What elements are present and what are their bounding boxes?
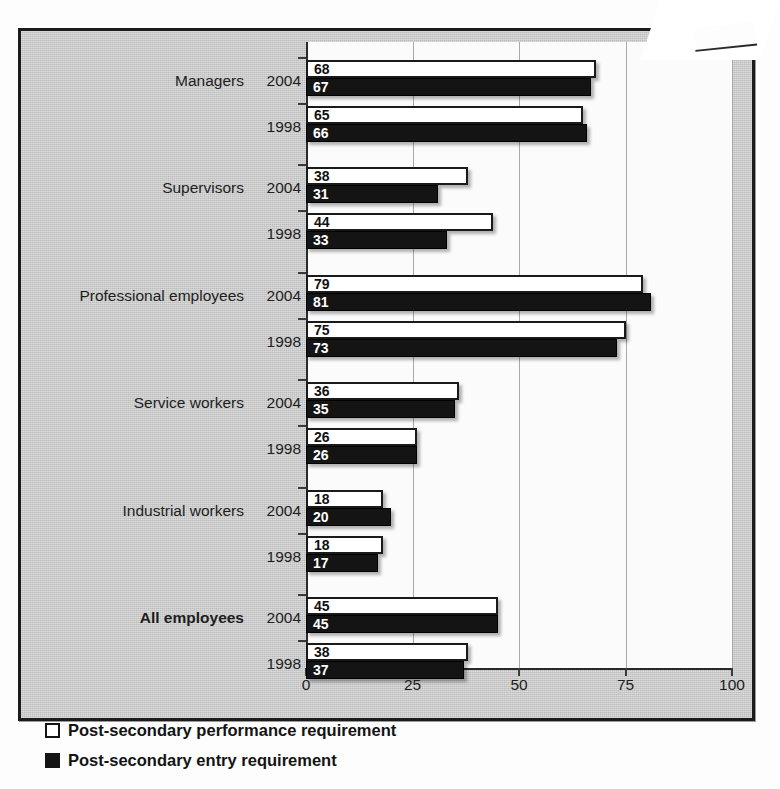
bar-performance: 36 — [306, 382, 459, 400]
bar-value-label: 26 — [314, 430, 330, 444]
bar-performance: 38 — [306, 643, 468, 661]
bar-value-label: 37 — [313, 663, 329, 677]
bar-value-label: 45 — [313, 617, 329, 631]
bar-value-label: 68 — [314, 62, 330, 76]
x-tick-50 — [518, 668, 520, 676]
x-axis-label-25: 25 — [404, 676, 421, 694]
bar-value-label: 44 — [314, 215, 330, 229]
year-label-managers-1998: 1998 — [249, 118, 301, 136]
year-label-all-employees-1998: 1998 — [249, 655, 301, 673]
y-axis-tick — [298, 379, 306, 381]
bar-performance: 38 — [306, 167, 468, 185]
legend-swatch-solid — [45, 753, 60, 768]
legend-label: Post-secondary performance requirement — [68, 721, 396, 740]
bar-value-label: 65 — [314, 108, 330, 122]
year-label-professional-employees-2004: 2004 — [249, 287, 301, 305]
chart-area: ManagersSupervisorsProfessional employee… — [21, 31, 752, 718]
chart-figure-frame: ManagersSupervisorsProfessional employee… — [18, 28, 755, 721]
bar-entry: 31 — [306, 185, 438, 203]
gridline-75 — [626, 42, 627, 668]
year-label-industrial-workers-1998: 1998 — [249, 548, 301, 566]
y-axis-tick — [298, 640, 306, 642]
bar-value-label: 20 — [313, 510, 329, 524]
y-axis-tick — [298, 318, 306, 320]
gridline-100 — [732, 42, 733, 668]
bar-performance: 79 — [306, 275, 643, 293]
bar-entry: 66 — [306, 124, 587, 142]
y-axis-tick — [298, 272, 306, 274]
bar-entry: 20 — [306, 508, 391, 526]
y-axis-tick — [298, 210, 306, 212]
bar-performance: 18 — [306, 490, 383, 508]
bar-performance: 44 — [306, 213, 493, 231]
legend-swatch-open — [45, 723, 60, 738]
bar-value-label: 73 — [313, 341, 329, 355]
bar-entry: 33 — [306, 231, 447, 249]
x-axis-label-0: 0 — [302, 676, 311, 694]
chart-legend: Post-secondary performance requirementPo… — [45, 715, 396, 775]
bar-value-label: 18 — [314, 538, 330, 552]
bar-value-label: 31 — [313, 187, 329, 201]
x-axis-label-75: 75 — [617, 676, 634, 694]
bar-value-label: 26 — [313, 448, 329, 462]
y-axis-tick — [298, 487, 306, 489]
bar-performance: 18 — [306, 536, 383, 554]
bar-value-label: 18 — [314, 492, 330, 506]
bar-performance: 75 — [306, 321, 626, 339]
bar-performance: 45 — [306, 597, 498, 615]
x-tick-100 — [731, 668, 733, 676]
bar-performance: 26 — [306, 428, 417, 446]
bar-entry: 81 — [306, 293, 651, 311]
bar-value-label: 81 — [313, 295, 329, 309]
y-axis-tick — [298, 533, 306, 535]
y-axis-tick — [298, 103, 306, 105]
legend-label: Post-secondary entry requirement — [68, 751, 337, 770]
bar-entry: 67 — [306, 78, 591, 96]
bar-entry: 35 — [306, 400, 455, 418]
x-axis-tick-labels: 0255075100 — [306, 676, 776, 702]
bar-value-label: 36 — [314, 384, 330, 398]
year-label-supervisors-2004: 2004 — [249, 179, 301, 197]
bar-value-label: 67 — [313, 80, 329, 94]
bar-value-label: 38 — [314, 645, 330, 659]
bar-value-label: 79 — [314, 277, 330, 291]
x-axis-label-50: 50 — [510, 676, 527, 694]
bar-entry: 73 — [306, 339, 617, 357]
year-label-column: 2004199820041998200419982004199820041998… — [21, 31, 306, 718]
x-axis-label-100: 100 — [719, 676, 745, 694]
y-axis-tick — [298, 164, 306, 166]
bar-entry: 45 — [306, 615, 498, 633]
bar-value-label: 66 — [313, 126, 329, 140]
bar-value-label: 45 — [314, 599, 330, 613]
bar-value-label: 33 — [313, 233, 329, 247]
year-label-industrial-workers-2004: 2004 — [249, 502, 301, 520]
bar-performance: 68 — [306, 60, 596, 78]
year-label-all-employees-2004: 2004 — [249, 609, 301, 627]
y-axis-tick — [298, 594, 306, 596]
year-label-service-workers-2004: 2004 — [249, 394, 301, 412]
bar-entry: 17 — [306, 554, 378, 572]
bar-performance: 65 — [306, 106, 583, 124]
year-label-managers-2004: 2004 — [249, 72, 301, 90]
bar-value-label: 35 — [313, 402, 329, 416]
year-label-supervisors-1998: 1998 — [249, 225, 301, 243]
legend-item: Post-secondary entry requirement — [45, 745, 396, 775]
bar-entry: 26 — [306, 446, 417, 464]
x-tick-75 — [625, 668, 627, 676]
y-axis-tick — [298, 425, 306, 427]
year-label-professional-employees-1998: 1998 — [249, 333, 301, 351]
scanned-page-background: ManagersSupervisorsProfessional employee… — [0, 0, 780, 789]
y-axis-tick — [298, 57, 306, 59]
plot-region: 6867656638314433798175733635262618201817… — [306, 42, 732, 668]
year-label-service-workers-1998: 1998 — [249, 440, 301, 458]
legend-item: Post-secondary performance requirement — [45, 715, 396, 745]
bar-value-label: 75 — [314, 323, 330, 337]
bar-value-label: 17 — [313, 556, 329, 570]
bar-value-label: 38 — [314, 169, 330, 183]
